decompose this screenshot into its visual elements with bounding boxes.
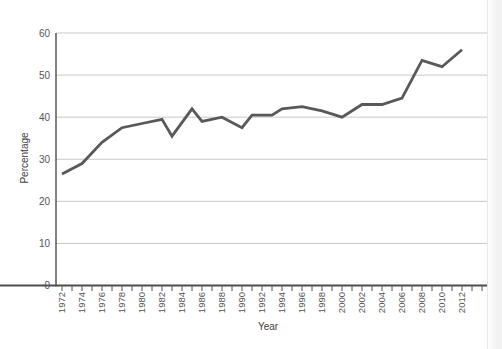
x-tick-label: 2006 bbox=[396, 292, 407, 313]
x-tick-label: 1982 bbox=[156, 292, 167, 313]
chart-figure: 0102030405060197219741976197819801982198… bbox=[0, 0, 502, 349]
x-tick-label: 1996 bbox=[296, 292, 307, 313]
y-tick-label: 60 bbox=[39, 28, 51, 39]
x-tick-label: 2002 bbox=[356, 292, 367, 313]
data-series-line bbox=[62, 50, 462, 174]
percentage-by-year-line-chart: 0102030405060197219741976197819801982198… bbox=[0, 0, 502, 349]
x-tick-label: 1988 bbox=[216, 292, 227, 313]
x-tick-label: 1986 bbox=[196, 292, 207, 313]
y-tick-label: 40 bbox=[39, 112, 51, 123]
x-tick-label: 2012 bbox=[456, 292, 467, 313]
y-tick-label: 0 bbox=[44, 280, 50, 291]
x-tick-label: 2000 bbox=[336, 292, 347, 313]
x-tick-label: 1980 bbox=[136, 292, 147, 313]
x-tick-label: 2008 bbox=[416, 292, 427, 313]
x-tick-label: 1992 bbox=[256, 292, 267, 313]
x-tick-label: 1972 bbox=[56, 292, 67, 313]
y-tick-label: 20 bbox=[39, 196, 51, 207]
x-tick-label: 1974 bbox=[76, 292, 87, 313]
x-tick-label: 1978 bbox=[116, 292, 127, 313]
y-tick-label: 10 bbox=[39, 238, 51, 249]
y-axis-title: Percentage bbox=[19, 132, 30, 184]
page-edge-strip bbox=[487, 0, 502, 349]
x-tick-label: 1990 bbox=[236, 292, 247, 313]
x-tick-label: 2010 bbox=[436, 292, 447, 313]
x-tick-label: 2004 bbox=[376, 292, 387, 313]
x-tick-label: 1984 bbox=[176, 292, 187, 313]
x-tick-label: 1994 bbox=[276, 292, 287, 313]
x-tick-label: 1998 bbox=[316, 292, 327, 313]
x-tick-label: 1976 bbox=[96, 292, 107, 313]
x-axis-title: Year bbox=[258, 321, 279, 332]
y-tick-label: 50 bbox=[39, 70, 51, 81]
y-tick-label: 30 bbox=[39, 154, 51, 165]
